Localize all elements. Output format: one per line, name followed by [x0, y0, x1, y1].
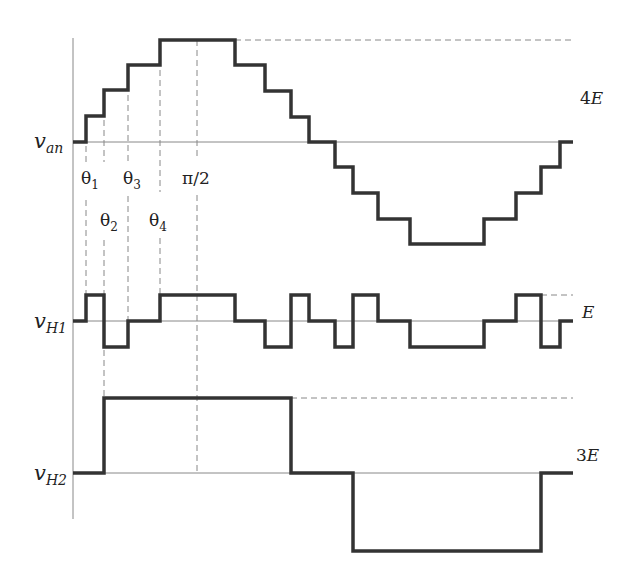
theta1-label: θ1 [81, 168, 99, 192]
theta2-label: θ2 [100, 210, 118, 234]
theta4-label: θ4 [149, 210, 167, 234]
vh1-amplitude-label: E [581, 302, 595, 322]
vh2-waveform [73, 398, 573, 551]
van-amplitude-label: 4E [580, 88, 604, 108]
theta3-label: θ3 [123, 168, 141, 192]
vh1-label: vH1 [34, 309, 67, 336]
vh2-label: vH2 [34, 461, 67, 488]
pi-half-label: π/2 [182, 168, 210, 188]
van-label: van [34, 129, 63, 156]
waveform-diagram: van vH1 vH2 θ1 θ2 θ3 θ4 π/2 4E E 3E [0, 0, 631, 581]
vh2-amplitude-label: 3E [576, 445, 600, 465]
diagram-svg: van vH1 vH2 θ1 θ2 θ3 θ4 π/2 4E E 3E [0, 0, 631, 581]
vh1-waveform [73, 295, 573, 347]
